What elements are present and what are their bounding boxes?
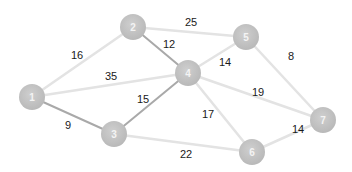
edge-weight-label: 14 [292, 123, 304, 135]
edge-1-2 [32, 27, 133, 97]
edge-weight-label: 17 [202, 108, 214, 120]
graph-node-3: 3 [101, 121, 127, 147]
node-label: 6 [249, 147, 255, 158]
edge-weight-label: 12 [163, 38, 175, 50]
node-label: 1 [29, 92, 35, 103]
edge-weight-label: 19 [252, 86, 264, 98]
graph-canvas: 1635912251522141917814 1234567 [0, 0, 352, 172]
graph-node-5: 5 [233, 24, 259, 50]
edge-weight-label: 15 [137, 93, 149, 105]
edge-weight-label: 8 [288, 50, 294, 62]
node-label: 2 [130, 22, 136, 33]
node-label: 3 [111, 129, 117, 140]
graph-node-7: 7 [310, 107, 336, 133]
graph-node-1: 1 [19, 84, 45, 110]
edge-weight-label: 16 [71, 49, 83, 61]
node-label: 7 [320, 115, 326, 126]
edge-weight-label: 9 [65, 119, 71, 131]
edge-weight-label: 35 [105, 70, 117, 82]
node-label: 5 [243, 32, 249, 43]
graph-node-6: 6 [239, 139, 265, 165]
edge-weight-label: 14 [219, 56, 231, 68]
graph-node-2: 2 [120, 14, 146, 40]
graph-node-4: 4 [175, 60, 201, 86]
edge-weight-label: 25 [185, 16, 197, 28]
edge-2-5 [133, 27, 246, 37]
edge-weight-label: 22 [180, 148, 192, 160]
edges-layer [0, 0, 352, 172]
node-label: 4 [185, 68, 191, 79]
